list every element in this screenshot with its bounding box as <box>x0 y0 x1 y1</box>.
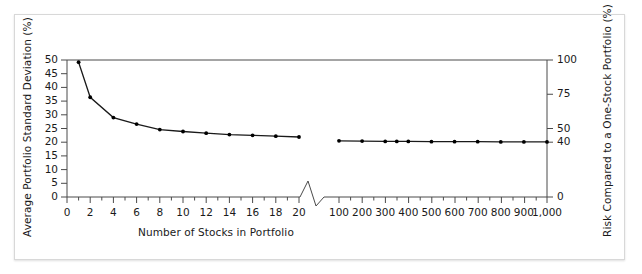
y-right-ticks <box>547 60 553 197</box>
y-left-tick-50: 50 <box>26 53 58 65</box>
data-point <box>337 139 341 143</box>
data-point <box>297 135 301 139</box>
y-right-tick-50: 50 <box>557 122 591 134</box>
y-left-tick-20: 20 <box>26 135 58 147</box>
data-point <box>430 140 434 144</box>
data-point <box>476 140 480 144</box>
figure-root: Average Portfolio Standard Deviation (%)… <box>0 0 642 274</box>
data-point <box>360 139 364 143</box>
y-left-tick-45: 45 <box>26 67 58 79</box>
y-right-tick-0: 0 <box>557 190 591 202</box>
y-left-tick-5: 5 <box>26 176 58 188</box>
series-line-left <box>79 62 299 137</box>
y-right-tick-75: 75 <box>557 87 591 99</box>
data-point <box>395 139 399 143</box>
y-left-tick-35: 35 <box>26 94 58 106</box>
y-left-tick-15: 15 <box>26 149 58 161</box>
y-left-tick-0: 0 <box>26 190 58 202</box>
x-tick-20: 20 <box>283 206 315 218</box>
series-segment-1 <box>79 62 299 137</box>
series-segment-2 <box>339 141 547 142</box>
series-markers-left <box>77 60 301 139</box>
y-left-tick-30: 30 <box>26 108 58 120</box>
data-point <box>135 122 139 126</box>
x-axis-baseline <box>67 181 547 206</box>
data-point <box>251 133 255 137</box>
data-point <box>88 95 92 99</box>
x-axis-title: Number of Stocks in Portfolio <box>86 226 346 238</box>
y-left-ticks <box>61 60 67 197</box>
plot-box <box>67 60 547 197</box>
y-left-tick-40: 40 <box>26 80 58 92</box>
data-point <box>545 140 549 144</box>
data-point <box>383 139 387 143</box>
data-point <box>406 139 410 143</box>
data-point <box>158 128 162 132</box>
data-point <box>204 131 208 135</box>
y-right-tick-100: 100 <box>557 53 591 65</box>
data-point <box>228 133 232 137</box>
data-point <box>274 134 278 138</box>
x-ticks-segment-2 <box>339 197 547 203</box>
series-line-right <box>339 141 547 142</box>
y-left-tick-10: 10 <box>26 163 58 175</box>
data-point <box>77 60 81 64</box>
data-point <box>112 116 116 120</box>
y-left-tick-25: 25 <box>26 122 58 134</box>
y-axis-right-title: Risk Compared to a One-Stock Portfolio (… <box>601 27 613 237</box>
data-point <box>499 140 503 144</box>
axis-break-zigzag <box>300 181 324 206</box>
x-tick-1000: 1,000 <box>529 206 565 218</box>
data-point <box>181 130 185 134</box>
x-ticks-segment-1 <box>67 197 299 203</box>
data-point <box>522 140 526 144</box>
data-point <box>453 140 457 144</box>
y-right-tick-40: 40 <box>557 135 591 147</box>
